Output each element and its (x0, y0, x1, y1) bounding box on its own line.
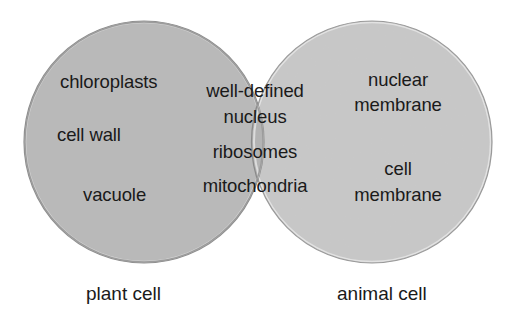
shared-item-ribosomes: ribosomes (213, 143, 297, 162)
animal-item-nuclear: nuclear (368, 71, 428, 90)
animal-item-cell-membrane: membrane (354, 186, 442, 205)
animal-cell-caption: animal cell (337, 284, 427, 303)
animal-item-cell: cell (384, 160, 411, 179)
plant-item-cell-wall: cell wall (57, 126, 121, 145)
plant-cell-caption: plant cell (86, 284, 161, 303)
shared-item-mitochondria: mitochondria (203, 177, 308, 196)
shared-item-nucleus: nucleus (223, 108, 286, 127)
animal-item-nuclear-membrane: membrane (354, 96, 442, 115)
shared-item-well-defined: well-defined (206, 82, 304, 101)
plant-item-chloroplasts: chloroplasts (60, 73, 158, 92)
plant-item-vacuole: vacuole (83, 186, 146, 205)
